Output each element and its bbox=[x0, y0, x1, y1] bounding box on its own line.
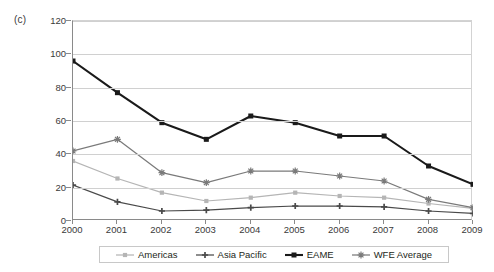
gridline bbox=[73, 54, 471, 55]
gridlines bbox=[73, 21, 471, 219]
data-point-star bbox=[357, 251, 364, 258]
gridline bbox=[73, 188, 471, 189]
chart-legend: AmericasAsia PacificEAMEWFE Average bbox=[99, 246, 449, 263]
x-axis-labels: 2000200120022003200420052006200720082009 bbox=[72, 224, 472, 240]
y-tick-mark bbox=[66, 87, 71, 88]
x-tick-mark bbox=[339, 220, 340, 224]
legend-marker-icon bbox=[352, 250, 370, 260]
gridline bbox=[73, 21, 471, 22]
y-tick-mark bbox=[66, 120, 71, 121]
gridline bbox=[73, 88, 471, 89]
x-tick-mark bbox=[250, 220, 251, 224]
y-tick-label: 20 bbox=[34, 181, 66, 192]
y-tick-mark bbox=[66, 20, 71, 21]
y-tick-mark bbox=[66, 187, 71, 188]
legend-item-americas[interactable]: Americas bbox=[116, 249, 178, 260]
legend-marker-icon bbox=[116, 250, 134, 260]
x-tick-mark bbox=[116, 220, 117, 224]
data-point-plus bbox=[201, 251, 207, 257]
x-tick-mark bbox=[72, 220, 73, 224]
legend-marker-icon bbox=[196, 250, 214, 260]
y-tick-mark bbox=[66, 53, 71, 54]
y-tick-mark bbox=[66, 220, 71, 221]
legend-marker-icon bbox=[285, 250, 303, 260]
data-point-square bbox=[291, 252, 296, 257]
y-axis-labels: 020406080100120 bbox=[30, 20, 66, 220]
x-tick-mark bbox=[205, 220, 206, 224]
x-tick-mark bbox=[383, 220, 384, 224]
panel-label: (c) bbox=[14, 14, 26, 25]
y-tick-mark bbox=[66, 153, 71, 154]
y-tick-label: 80 bbox=[34, 81, 66, 92]
legend-label: Asia Pacific bbox=[218, 249, 267, 260]
legend-label: Americas bbox=[138, 249, 178, 260]
x-tick-label: 2009 bbox=[444, 224, 494, 235]
legend-item-eame[interactable]: EAME bbox=[285, 249, 334, 260]
legend-item-wfe-average[interactable]: WFE Average bbox=[352, 249, 432, 260]
plot-area bbox=[72, 20, 472, 220]
x-tick-mark bbox=[161, 220, 162, 224]
x-tick-mark bbox=[472, 220, 473, 224]
legend-label: WFE Average bbox=[374, 249, 432, 260]
data-point-square bbox=[123, 252, 127, 256]
x-tick-mark bbox=[294, 220, 295, 224]
y-tick-label: 40 bbox=[34, 148, 66, 159]
chart-figure: (c) 020406080100120 20002001200220032004… bbox=[0, 0, 494, 272]
gridline bbox=[73, 121, 471, 122]
y-tick-label: 60 bbox=[34, 115, 66, 126]
legend-item-asia-pacific[interactable]: Asia Pacific bbox=[196, 249, 267, 260]
legend-label: EAME bbox=[307, 249, 334, 260]
y-tick-label: 100 bbox=[34, 48, 66, 59]
gridline bbox=[73, 154, 471, 155]
x-tick-mark bbox=[428, 220, 429, 224]
y-tick-label: 120 bbox=[34, 15, 66, 26]
